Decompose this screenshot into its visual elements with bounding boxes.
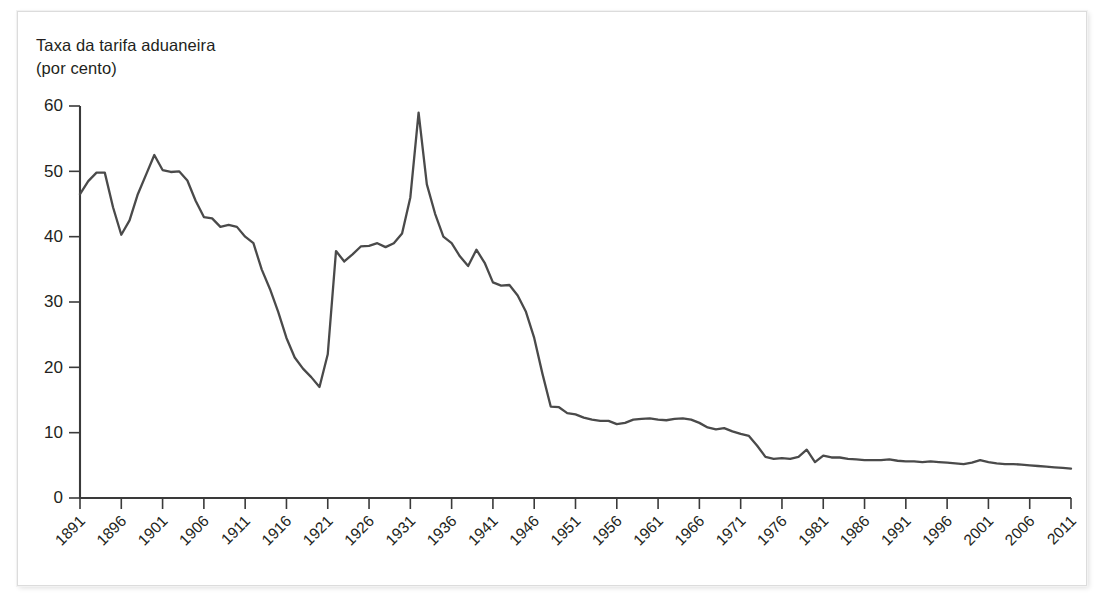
y-tick-label: 50 bbox=[44, 162, 63, 181]
x-tick-label: 1896 bbox=[93, 512, 129, 548]
x-tick-label: 1991 bbox=[878, 512, 914, 548]
axis-lines bbox=[80, 106, 1071, 498]
x-tick-label: 1971 bbox=[712, 512, 748, 548]
x-tick-label: 1901 bbox=[134, 512, 170, 548]
y-tick-label: 60 bbox=[44, 96, 63, 115]
x-tick-label: 1956 bbox=[589, 512, 625, 548]
x-tick-label: 1916 bbox=[258, 512, 294, 548]
x-tick-label: 1921 bbox=[299, 512, 335, 548]
x-tick-label: 2001 bbox=[960, 512, 996, 548]
y-tick-label: 10 bbox=[44, 423, 63, 442]
x-tick-label: 1961 bbox=[630, 512, 666, 548]
x-tick-label: 1946 bbox=[506, 512, 542, 548]
x-tick-label: 2006 bbox=[1001, 512, 1037, 548]
plot-area: 0102030405060 18911896190119061911191619… bbox=[18, 12, 1088, 587]
x-tick-label: 1976 bbox=[754, 512, 790, 548]
x-tick-label: 1936 bbox=[423, 512, 459, 548]
x-axis-labels: 1891189619011906191119161921192619311936… bbox=[52, 512, 1079, 548]
x-tick-label: 1926 bbox=[341, 512, 377, 548]
y-tick-label: 40 bbox=[44, 227, 63, 246]
x-tick-label: 1941 bbox=[465, 512, 501, 548]
x-tick-label: 1966 bbox=[671, 512, 707, 548]
tariff-rate-line bbox=[80, 113, 1071, 469]
x-tick-label: 2011 bbox=[1044, 512, 1080, 548]
x-tick-label: 1986 bbox=[836, 512, 872, 548]
y-axis-labels: 0102030405060 bbox=[44, 96, 63, 507]
y-tick-label: 0 bbox=[54, 488, 63, 507]
y-tick-label: 20 bbox=[44, 358, 63, 377]
x-tick-label: 1951 bbox=[547, 512, 583, 548]
x-tick-label: 1981 bbox=[795, 512, 831, 548]
x-tick-label: 1931 bbox=[382, 512, 418, 548]
x-axis-ticks bbox=[80, 498, 1071, 509]
y-tick-label: 30 bbox=[44, 292, 63, 311]
y-axis-ticks bbox=[69, 106, 80, 498]
x-tick-label: 1911 bbox=[218, 512, 254, 548]
x-tick-label: 1891 bbox=[52, 512, 88, 548]
figure-panel: Taxa da tarifa aduaneira (por cento) 010… bbox=[17, 11, 1087, 586]
line-chart: 0102030405060 18911896190119061911191619… bbox=[18, 12, 1088, 587]
x-tick-label: 1906 bbox=[176, 512, 212, 548]
x-tick-label: 1996 bbox=[919, 512, 955, 548]
